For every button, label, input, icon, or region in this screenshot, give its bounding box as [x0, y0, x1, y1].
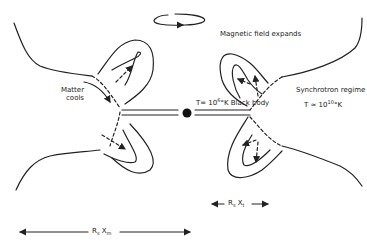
right-upper-outer-curve	[282, 18, 362, 77]
left-jet	[122, 110, 178, 115]
right-lower-dashed-arrow-down	[256, 142, 258, 162]
right-lower-dashed-arrow-left	[243, 140, 256, 145]
outer-scale-X: X	[99, 227, 106, 235]
rotation-arrow-icon	[154, 14, 205, 25]
synchrotron-temp-suffix: °K	[334, 101, 342, 109]
left-upper-outer-curve	[14, 23, 92, 76]
blackbody-label: T= 106°K Black body	[196, 100, 269, 107]
synchrotron-temp-prefix: T ≃ 10	[304, 101, 328, 109]
blackbody-prefix: T= 10	[196, 99, 217, 107]
left-matter-curve	[84, 82, 110, 102]
inner-scale-label: Rs Xt	[228, 200, 244, 207]
left-lower-dashed-arrow	[102, 135, 125, 149]
outer-scale-label: Rs Xm	[92, 228, 111, 235]
magnetic-field-text: Magnetic field expands	[220, 30, 301, 38]
matter-text: Matter	[59, 87, 84, 94]
cools-text: cools	[66, 95, 84, 102]
left-lower-lobe-inner	[104, 130, 136, 163]
right-lower-lobe-outer	[228, 117, 282, 178]
left-upper-lobe-inner	[112, 52, 141, 85]
right-lower-dashed	[250, 117, 282, 146]
right-jet	[195, 110, 250, 115]
inner-scale-X-sub: t	[243, 202, 245, 208]
synchrotron-text: Synchrotron regime	[296, 86, 365, 94]
synchrotron-temp: T ≃ 1010°K	[304, 102, 342, 109]
magnetic-field-label: Magnetic field expands	[220, 31, 301, 38]
matter-cools-label: Matter cools	[59, 87, 84, 102]
synchrotron-label: Synchrotron regime	[296, 87, 365, 94]
jet-diagram	[0, 0, 367, 241]
right-lower-outer-curve	[282, 146, 362, 186]
black-hole	[183, 109, 192, 118]
outer-scale-X-sub: m	[107, 230, 112, 236]
left-lower-outer-curve	[16, 150, 100, 190]
left-upper-dashed	[92, 76, 120, 108]
inner-scale-X: X	[235, 199, 242, 207]
right-upper-dashed-arrow-up	[255, 76, 258, 96]
blackbody-suffix: °K Black body	[220, 99, 269, 107]
